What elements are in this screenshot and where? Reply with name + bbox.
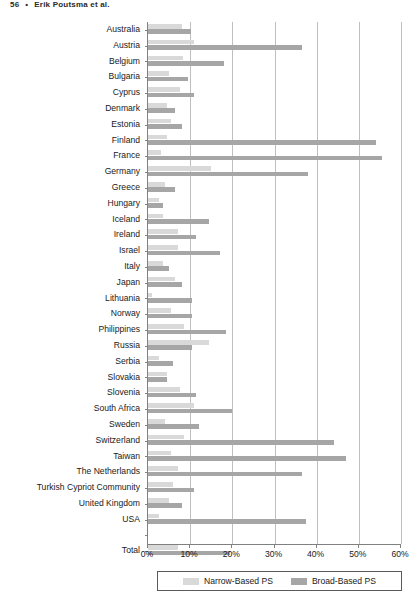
category-label: United Kingdom: [0, 496, 144, 512]
category-label: Germany: [0, 164, 144, 180]
category-label: Switzerland: [0, 433, 144, 449]
bar-broad-based-ps: [148, 187, 175, 192]
bar-narrow-based-ps: [148, 245, 178, 250]
bar-row: [148, 117, 400, 133]
bar-broad-based-ps: [148, 424, 199, 429]
figure-bar-chart: AustraliaAustriaBelgiumBulgariaCyprusDen…: [0, 0, 413, 603]
category-label: Belgium: [0, 54, 144, 70]
x-tick-40pct: [316, 544, 317, 548]
bar-narrow-based-ps: [148, 87, 180, 92]
bar-broad-based-ps: [148, 393, 196, 398]
bar-broad-based-ps: [148, 314, 192, 319]
category-label: Cyprus: [0, 85, 144, 101]
category-label: Italy: [0, 259, 144, 275]
category-label: Iceland: [0, 212, 144, 228]
category-label: South Africa: [0, 401, 144, 417]
category-label: Hungary: [0, 196, 144, 212]
x-axis-label: 20%: [223, 549, 240, 559]
bar-broad-based-ps: [148, 77, 188, 82]
x-tick-30pct: [274, 544, 275, 548]
bar-narrow-based-ps: [148, 372, 167, 377]
bar-row: [148, 291, 400, 307]
bar-narrow-based-ps: [148, 293, 152, 298]
bar-row-spacer: [148, 528, 400, 544]
category-label: Norway: [0, 306, 144, 322]
bar-narrow-based-ps: [148, 324, 184, 329]
bar-narrow-based-ps: [148, 435, 184, 440]
bar-narrow-based-ps: [148, 261, 163, 266]
bar-row: [148, 180, 400, 196]
legend-entry-broad: Broad-Based PS: [291, 576, 376, 586]
bar-broad-based-ps: [148, 93, 194, 98]
bar-row: [148, 259, 400, 275]
bar-narrow-based-ps: [148, 277, 175, 282]
bar-broad-based-ps: [148, 488, 194, 493]
x-axis-label: 0%: [141, 549, 153, 559]
x-tick-60pct: [400, 544, 401, 548]
bar-narrow-based-ps: [148, 498, 169, 503]
bar-narrow-based-ps: [148, 419, 165, 424]
bar-narrow-based-ps: [148, 119, 171, 124]
bar-row: [148, 133, 400, 149]
bar-broad-based-ps: [148, 456, 346, 461]
bar-row: [148, 101, 400, 117]
bar-broad-based-ps: [148, 282, 182, 287]
category-label: Russia: [0, 338, 144, 354]
bar-row: [148, 212, 400, 228]
bar-row: [148, 433, 400, 449]
x-tick-0pct: [147, 544, 148, 548]
bar-broad-based-ps: [148, 140, 376, 145]
category-label: Denmark: [0, 101, 144, 117]
bar-row: [148, 464, 400, 480]
bar-row: [148, 354, 400, 370]
bar-broad-based-ps: [148, 345, 192, 350]
bar-narrow-based-ps: [148, 56, 183, 61]
bar-narrow-based-ps: [148, 387, 180, 392]
x-axis-label: 60%: [391, 549, 408, 559]
bar-narrow-based-ps: [148, 214, 163, 219]
bar-row: [148, 69, 400, 85]
category-label: Sweden: [0, 417, 144, 433]
bar-row: [148, 370, 400, 386]
category-label: Lithuania: [0, 291, 144, 307]
category-label: Serbia: [0, 354, 144, 370]
bar-narrow-based-ps: [148, 135, 167, 140]
x-axis-label: 40%: [307, 549, 324, 559]
plot-area: [147, 22, 400, 544]
category-label: Japan: [0, 275, 144, 291]
x-tick-50pct: [358, 544, 359, 548]
bar-narrow-based-ps: [148, 24, 182, 29]
bar-narrow-based-ps: [148, 150, 161, 155]
bar-row: [148, 54, 400, 70]
bar-row: [148, 275, 400, 291]
category-label: Estonia: [0, 117, 144, 133]
bar-broad-based-ps: [148, 219, 209, 224]
gridline-60pct: [401, 22, 402, 544]
bar-narrow-based-ps: [148, 514, 159, 519]
bar-row: [148, 496, 400, 512]
bar-narrow-based-ps: [148, 182, 165, 187]
x-tick-10pct: [189, 544, 190, 548]
category-label: Slovenia: [0, 385, 144, 401]
bar-narrow-based-ps: [148, 308, 171, 313]
bar-row: [148, 85, 400, 101]
bar-row: [148, 22, 400, 38]
bar-broad-based-ps: [148, 61, 224, 66]
bar-row: [148, 243, 400, 259]
bar-row: [148, 385, 400, 401]
bar-row: [148, 164, 400, 180]
bar-broad-based-ps: [148, 203, 163, 208]
category-label-empty: [0, 528, 144, 544]
x-axis-label: 10%: [181, 549, 198, 559]
bar-broad-based-ps: [148, 409, 232, 414]
bar-row: [148, 480, 400, 496]
bar-row: [148, 338, 400, 354]
x-axis-label: 50%: [349, 549, 366, 559]
legend-label-narrow: Narrow-Based PS: [204, 576, 273, 586]
bar-narrow-based-ps: [148, 466, 178, 471]
category-label: Slovakia: [0, 370, 144, 386]
bar-broad-based-ps: [148, 503, 182, 508]
category-label: Finland: [0, 133, 144, 149]
bar-narrow-based-ps: [148, 229, 178, 234]
legend-label-broad: Broad-Based PS: [312, 576, 376, 586]
